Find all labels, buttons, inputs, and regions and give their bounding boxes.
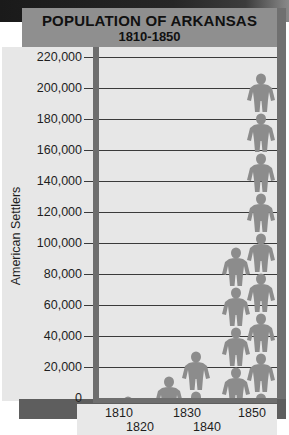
y-axis-line — [93, 47, 99, 403]
y-tick-mark — [84, 367, 93, 368]
person-icon — [181, 351, 211, 389]
person-icon — [246, 113, 276, 151]
person-icon — [154, 376, 184, 398]
y-tick-label: 220,000 — [37, 50, 82, 64]
x-tick-label: 1850 — [232, 406, 272, 420]
y-axis-title: American Settlers — [9, 176, 25, 296]
y-tick-mark — [84, 212, 93, 213]
y-tick-mark — [84, 305, 93, 306]
y-tick-label: 200,000 — [37, 81, 82, 95]
y-tick-label: 20,000 — [44, 360, 82, 374]
x-tick-label: 1820 — [120, 420, 160, 434]
person-icon — [246, 353, 276, 391]
pictograph-column-1850 — [246, 73, 276, 398]
gridline — [99, 57, 277, 58]
chart-subtitle: 1810-1850 — [22, 29, 277, 44]
person-icon — [246, 73, 276, 111]
y-tick-label: 120,000 — [37, 205, 82, 219]
x-tick-label: 1830 — [167, 406, 207, 420]
y-tick-mark — [84, 57, 93, 58]
y-tick-label: 140,000 — [37, 174, 82, 188]
right-frame-bar — [277, 8, 286, 418]
y-tick-mark — [84, 274, 93, 275]
y-tick-mark — [84, 181, 93, 182]
x-axis-line — [93, 398, 277, 403]
y-tick-label: 40,000 — [44, 329, 82, 343]
y-tick-mark — [84, 336, 93, 337]
person-icon — [246, 313, 276, 351]
y-tick-label: 0 — [75, 391, 82, 405]
y-tick-mark — [84, 243, 93, 244]
y-tick-label: 160,000 — [37, 143, 82, 157]
pictograph-column-1830 — [181, 351, 211, 398]
chart-header: POPULATION OF ARKANSAS 1810-1850 — [22, 8, 277, 47]
person-icon — [246, 193, 276, 231]
person-icon — [181, 391, 211, 398]
y-tick-mark — [84, 88, 93, 89]
y-tick-label: 60,000 — [44, 298, 82, 312]
y-tick-mark — [84, 119, 93, 120]
person-icon — [246, 233, 276, 271]
pictograph-column-1820 — [154, 376, 184, 398]
y-tick-label: 100,000 — [37, 236, 82, 250]
person-icon — [246, 273, 276, 311]
y-tick-mark — [84, 150, 93, 151]
x-tick-label: 1840 — [187, 420, 227, 434]
y-tick-label: 180,000 — [37, 112, 82, 126]
y-tick-label: 80,000 — [44, 267, 82, 281]
chart-title: POPULATION OF ARKANSAS — [22, 12, 277, 29]
top-corner — [0, 22, 22, 46]
person-icon — [246, 153, 276, 191]
plot-area — [99, 47, 277, 398]
x-tick-label: 1810 — [99, 406, 139, 420]
